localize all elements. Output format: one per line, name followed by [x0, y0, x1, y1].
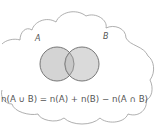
venn-diagram-canvas: A B n(A ∪ B) = n(A) + n(B) − n(A ∩ B) [0, 0, 157, 137]
union-formula: n(A ∪ B) = n(A) + n(B) − n(A ∩ B) [1, 94, 148, 104]
set-a-label: A [34, 34, 40, 43]
set-b-label: B [103, 32, 109, 41]
